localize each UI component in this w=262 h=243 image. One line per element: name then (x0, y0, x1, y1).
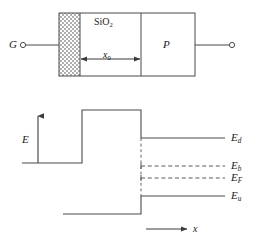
level-label-Eu: Eu (231, 190, 241, 203)
level-label-EF: EF (231, 172, 242, 185)
gate-terminal-label: G (9, 39, 17, 50)
level-subscript-Ed: d (238, 137, 242, 145)
level-label-Ed: Ed (231, 132, 241, 145)
right-terminal-node-icon[interactable] (229, 42, 234, 47)
level-subscript-Eu: u (238, 195, 242, 203)
device-cross-section (20, 13, 234, 76)
left-terminal-node-icon[interactable] (20, 42, 25, 47)
valence-band-profile (63, 196, 225, 214)
gate-metal-region (59, 13, 80, 76)
oxide-layer-label-text: SiO (94, 16, 110, 27)
conduction-band-profile (22, 110, 225, 163)
level-symbol-Eu: E (231, 189, 238, 201)
semiconductor-region-label: P (163, 39, 170, 50)
position-axis-label: x (193, 224, 197, 234)
energy-axis-label: E (22, 134, 29, 145)
level-subscript-EF: F (238, 177, 242, 185)
energy-band-device-figure: G SiO2 P x0 E x Ed Eb EF Eu (0, 0, 262, 243)
level-symbol-EF: E (231, 171, 238, 183)
oxide-thickness-label: x0 (103, 50, 111, 61)
figure-vector-canvas (0, 0, 262, 243)
oxide-layer-label-subscript: 2 (110, 21, 113, 28)
level-symbol-Eb: E (231, 159, 238, 171)
energy-band-diagram (22, 110, 225, 229)
oxide-thickness-subscript: 0 (107, 54, 110, 61)
oxide-layer-label: SiO2 (94, 17, 113, 28)
level-symbol-Ed: E (231, 131, 238, 143)
